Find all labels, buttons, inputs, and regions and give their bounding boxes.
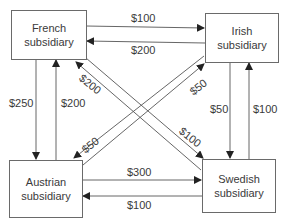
node-label-line1: Swedish [214, 172, 264, 186]
arrow-french-to-swedish [86, 58, 203, 158]
flow-label-french-to-irish: $100 [131, 12, 155, 24]
flow-label-swedish-to-irish: $100 [253, 103, 277, 115]
node-austrian-subsidiary: Austrian subsidiary [9, 160, 83, 218]
flow-label-french-to-austrian: $250 [9, 97, 33, 109]
arrow-irish-to-french [87, 41, 205, 43]
node-label-line1: Irish [217, 24, 267, 38]
node-label-line2: subsidiary [21, 189, 71, 203]
flow-label-swedish-to-austrian: $100 [127, 199, 151, 211]
node-label-line2: subsidiary [24, 35, 74, 49]
node-french-subsidiary: French subsidiary [11, 10, 87, 60]
node-label-line2: subsidiary [217, 38, 267, 52]
node-swedish-subsidiary: Swedish subsidiary [202, 159, 276, 213]
arrow-french-to-irish [86, 26, 204, 28]
arrow-swedish-to-french [76, 62, 201, 170]
flow-label-austrian-to-swedish: $300 [127, 166, 151, 178]
flow-label-irish-to-french: $200 [131, 44, 155, 56]
node-label-line2: subsidiary [214, 186, 264, 200]
flow-label-irish-to-swedish: $50 [210, 103, 228, 115]
node-label-line1: French [24, 21, 74, 35]
arrow-austrian-to-irish [83, 64, 204, 165]
flow-label-austrian-to-french: $200 [61, 97, 85, 109]
node-irish-subsidiary: Irish subsidiary [205, 13, 279, 63]
node-label-line1: Austrian [21, 175, 71, 189]
